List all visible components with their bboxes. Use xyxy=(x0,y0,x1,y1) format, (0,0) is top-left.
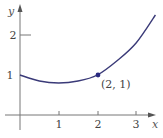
x-tick-label-3: 3 xyxy=(133,118,140,131)
chart-figure: 1 2 3 1 2 y x (2, 1) xyxy=(0,0,163,138)
y-tick-label-1: 1 xyxy=(7,69,14,82)
function-curve xyxy=(20,15,155,83)
chart-svg: 1 2 3 1 2 y x (2, 1) xyxy=(0,0,163,138)
point-label: (2, 1) xyxy=(101,78,131,91)
y-axis-arrow-icon xyxy=(18,4,23,12)
y-axis-label: y xyxy=(7,5,15,18)
x-tick-label-2: 2 xyxy=(95,118,102,131)
x-axis-label: x xyxy=(152,118,159,131)
point-marker xyxy=(96,73,101,78)
y-tick-label-2: 2 xyxy=(10,29,17,42)
x-axis-arrow-icon xyxy=(148,113,156,118)
x-tick-label-1: 1 xyxy=(56,118,63,131)
